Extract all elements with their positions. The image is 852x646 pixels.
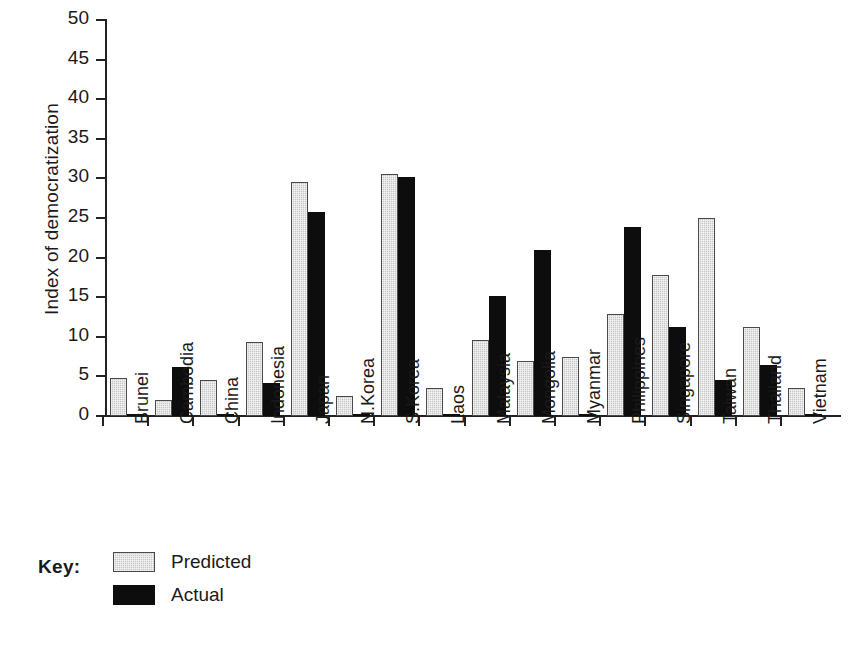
bar-predicted-singapore xyxy=(652,275,669,416)
x-axis-label-cambodia: Cambodia xyxy=(177,342,197,424)
y-tick-20: 20 xyxy=(96,257,105,259)
legend-swatch-predicted-icon xyxy=(113,552,155,572)
y-tick-label-5: 5 xyxy=(78,363,89,385)
y-tick-10: 10 xyxy=(96,336,105,338)
bar-predicted-taiwan xyxy=(698,218,715,416)
bar-predicted-vietnam xyxy=(788,388,805,416)
x-axis-label-malaysia: Malaysia xyxy=(494,353,514,424)
x-axis-label-japan: Japan xyxy=(313,375,333,424)
bar-group xyxy=(379,20,417,416)
x-axis-label-taiwan: Taiwan xyxy=(720,368,740,424)
bar-predicted-philippines xyxy=(607,314,624,416)
x-axis-label-indonesia: Indonesia xyxy=(268,346,288,424)
y-tick-45: 45 xyxy=(96,59,105,61)
y-tick-40: 40 xyxy=(96,98,105,100)
x-axis-label-skorea: S.Korea xyxy=(403,359,423,424)
y-tick-30: 30 xyxy=(96,177,105,179)
bar-predicted-nkorea xyxy=(336,396,353,416)
x-axis-label-mongolia: Mongolia xyxy=(539,351,559,424)
y-tick-label-15: 15 xyxy=(68,284,89,306)
bar-predicted-indonesia xyxy=(246,342,263,416)
bar-predicted-laos xyxy=(426,388,443,417)
y-tick-label-40: 40 xyxy=(68,86,89,108)
bar-group xyxy=(289,20,327,416)
x-axis-label-china: China xyxy=(222,377,242,424)
y-tick-label-20: 20 xyxy=(68,245,89,267)
bar-predicted-mongolia xyxy=(517,361,534,416)
y-tick-15: 15 xyxy=(96,296,105,298)
y-tick-label-25: 25 xyxy=(68,205,89,227)
bar-group xyxy=(424,20,462,416)
legend-swatch-actual-icon xyxy=(113,585,155,605)
y-tick-50: 50 xyxy=(96,19,105,21)
y-tick-label-0: 0 xyxy=(78,403,89,425)
x-tick-brunei xyxy=(102,416,104,426)
y-tick-label-45: 45 xyxy=(68,47,89,69)
bar-group xyxy=(786,20,824,416)
x-axis-label-brunei: Brunei xyxy=(132,372,152,424)
y-tick-label-30: 30 xyxy=(68,165,89,187)
y-tick-25: 25 xyxy=(96,217,105,219)
x-axis-label-vietnam: Vietnam xyxy=(810,358,830,424)
bar-predicted-myanmar xyxy=(562,357,579,416)
bar-group xyxy=(198,20,236,416)
legend-item-actual: Actual xyxy=(113,585,224,605)
bar-group xyxy=(108,20,146,416)
x-axis-label-myanmar: Myanmar xyxy=(584,349,604,424)
y-tick-label-10: 10 xyxy=(68,324,89,346)
bar-predicted-thailand xyxy=(743,327,760,416)
bar-predicted-japan xyxy=(291,182,308,416)
bar-predicted-china xyxy=(200,380,217,416)
x-axis-label-nkorea: N.Korea xyxy=(358,358,378,424)
bar-group xyxy=(334,20,372,416)
x-axis-label-thailand: Thailand xyxy=(765,355,785,424)
legend-label-actual: Actual xyxy=(171,585,224,605)
bar-predicted-cambodia xyxy=(155,400,172,416)
x-axis-label-singapore: Singapore xyxy=(674,342,694,424)
y-axis-title: Index of democratization xyxy=(41,49,63,369)
y-tick-35: 35 xyxy=(96,138,105,140)
x-axis-label-laos: Laos xyxy=(448,385,468,424)
bar-predicted-skorea xyxy=(381,174,398,416)
x-axis-label-philippines: Philippines xyxy=(629,337,649,424)
legend-label-predicted: Predicted xyxy=(171,552,251,572)
y-tick-5: 5 xyxy=(96,375,105,377)
y-tick-label-35: 35 xyxy=(68,126,89,148)
bar-predicted-malaysia xyxy=(472,340,489,416)
legend-title: Key: xyxy=(38,556,80,578)
legend-item-predicted: Predicted xyxy=(113,552,251,572)
y-tick-label-50: 50 xyxy=(68,7,89,29)
chart-figure: Index of democratization 051015202530354… xyxy=(0,0,852,646)
bar-group xyxy=(696,20,734,416)
bar-predicted-brunei xyxy=(110,378,127,416)
plot-area: 05101520253035404550 xyxy=(105,20,840,416)
